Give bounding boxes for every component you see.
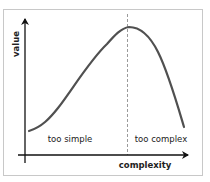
complexity-value-diagram: value complexity too simple too complex: [0, 0, 210, 182]
x-axis-label: complexity: [119, 160, 172, 170]
too-complex-label: too complex: [135, 134, 187, 144]
too-simple-label: too simple: [48, 134, 93, 144]
y-axis-label: value: [11, 31, 21, 57]
diagram-canvas: value complexity too simple too complex: [0, 0, 210, 182]
